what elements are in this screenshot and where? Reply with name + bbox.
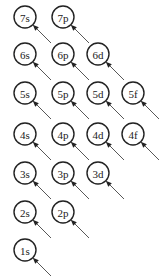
orbital-1s: 1s <box>14 239 36 261</box>
filling-arrow-1s <box>34 259 52 277</box>
orbital-label: 3s <box>20 168 30 180</box>
orbital-label: 5f <box>128 88 138 100</box>
orbital-4f: 4f <box>122 123 144 145</box>
filling-arrow-5d <box>107 102 125 120</box>
orbital-4s: 4s <box>14 123 36 145</box>
orbital-7s: 7s <box>14 6 36 28</box>
filling-arrow-3d <box>107 182 125 200</box>
orbital-label: 4d <box>93 129 105 141</box>
aufbau-diagram: 7s7p6s6p6d5s5p5d5f4s4p4d4f3s3p3d2s2p1s <box>0 0 166 279</box>
orbital-6s: 6s <box>14 43 36 65</box>
orbital-2p: 2p <box>52 201 74 223</box>
orbital-5d: 5d <box>87 82 109 104</box>
filling-arrow-6d <box>107 63 125 81</box>
orbital-label: 5s <box>20 88 30 100</box>
orbital-label: 5d <box>93 88 105 100</box>
orbital-5s: 5s <box>14 82 36 104</box>
orbital-label: 6p <box>58 49 70 61</box>
filling-arrow-4f <box>142 143 160 161</box>
orbital-label: 3d <box>93 168 105 180</box>
orbital-5f: 5f <box>122 82 144 104</box>
filling-arrow-5p <box>72 102 90 120</box>
orbital-label: 4f <box>128 129 138 141</box>
orbital-3d: 3d <box>87 162 109 184</box>
orbital-label: 4s <box>20 129 30 141</box>
orbital-6d: 6d <box>87 43 109 65</box>
orbital-label: 1s <box>20 245 30 257</box>
orbital-3s: 3s <box>14 162 36 184</box>
orbital-label: 7p <box>58 12 70 24</box>
filling-arrow-3s <box>34 182 52 200</box>
orbital-label: 4p <box>58 129 70 141</box>
orbital-2s: 2s <box>14 201 36 223</box>
orbital-6p: 6p <box>52 43 74 65</box>
orbital-label: 3p <box>58 168 70 180</box>
orbital-5p: 5p <box>52 82 74 104</box>
orbital-7p: 7p <box>52 6 74 28</box>
orbital-label: 7s <box>20 12 30 24</box>
orbital-label: 5p <box>58 88 70 100</box>
filling-arrow-3p <box>72 182 90 200</box>
filling-arrow-6s <box>34 63 52 81</box>
filling-arrow-2s <box>34 221 52 239</box>
filling-arrow-4d <box>107 143 125 161</box>
filling-arrow-6p <box>72 63 90 81</box>
orbital-label: 6s <box>20 49 30 61</box>
orbital-4d: 4d <box>87 123 109 145</box>
filling-arrow-7s <box>34 26 52 44</box>
orbital-label: 2s <box>20 207 30 219</box>
orbital-3p: 3p <box>52 162 74 184</box>
orbital-label: 2p <box>58 207 70 219</box>
filling-arrow-4p <box>72 143 90 161</box>
orbital-4p: 4p <box>52 123 74 145</box>
filling-arrow-2p <box>72 221 90 239</box>
filling-arrow-5s <box>34 102 52 120</box>
filling-arrow-7p <box>72 26 90 44</box>
orbital-label: 6d <box>93 49 105 61</box>
filling-arrow-4s <box>34 143 52 161</box>
filling-arrow-5f <box>142 102 160 120</box>
